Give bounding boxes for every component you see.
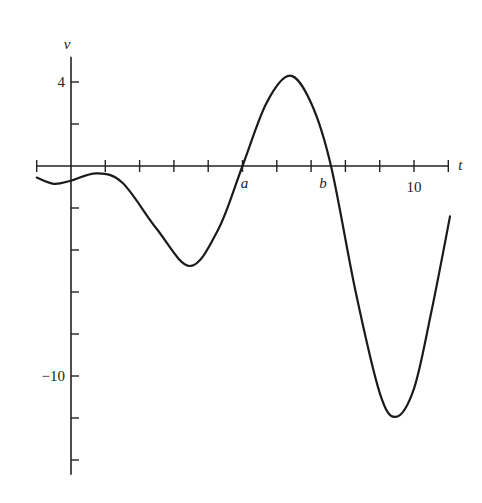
annotation-a: a — [241, 175, 249, 191]
x-tick-label: 10 — [407, 179, 422, 195]
axis-ticks — [37, 82, 449, 460]
y-axis-label: v — [64, 36, 71, 52]
axis-labels: 104−10tvab — [42, 36, 464, 384]
y-tick-label: −10 — [42, 368, 65, 384]
x-axis-label: t — [458, 157, 463, 173]
y-tick-label: 4 — [58, 74, 66, 90]
data-series-v-of-t — [37, 76, 450, 417]
line-chart: 104−10tvab — [0, 0, 482, 503]
annotation-b: b — [319, 175, 327, 191]
